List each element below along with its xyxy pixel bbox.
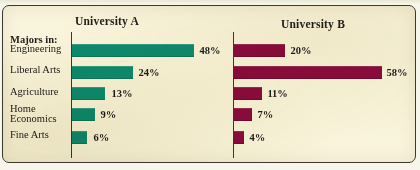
bar-value-liberal-arts-b: 58%	[386, 67, 407, 78]
bar-home-economics-b	[234, 108, 252, 121]
scanned-figure-page: Enrollment University A University B Maj…	[0, 0, 420, 170]
bar-liberal-arts-b	[234, 66, 382, 79]
chart-plot-university-b: 20% 58% 11% 7% 4%	[233, 32, 385, 158]
bar-fine-arts-b	[234, 131, 244, 144]
category-label-liberal-arts: Liberal Arts	[10, 65, 70, 76]
bar-engineering-b	[234, 44, 285, 57]
category-label-fine-arts: Fine Arts	[10, 130, 70, 141]
bar-agriculture-b	[234, 87, 262, 100]
chart-title-university-a: University A	[47, 15, 167, 27]
category-label-agriculture: Agriculture	[10, 87, 70, 98]
bar-value-liberal-arts-a: 24%	[138, 67, 159, 78]
bar-value-engineering-a: 48%	[199, 45, 220, 56]
category-label-home-economics: Home Economics	[10, 104, 70, 124]
category-label-engineering: Engineering	[10, 44, 70, 55]
bar-value-fine-arts-a: 6%	[93, 132, 109, 143]
bar-value-fine-arts-b: 4%	[249, 132, 265, 143]
bar-liberal-arts-a	[72, 66, 133, 79]
category-label-column: Engineering Liberal Arts Agriculture Hom…	[10, 44, 70, 154]
bar-value-agriculture-a: 13%	[111, 88, 132, 99]
bar-agriculture-a	[72, 87, 105, 100]
bar-fine-arts-a	[72, 131, 87, 144]
bar-value-home-economics-b: 7%	[257, 109, 273, 120]
bar-home-economics-a	[72, 108, 95, 121]
figure-frame: University A University B Majors in: Eng…	[2, 5, 416, 163]
bar-value-home-economics-a: 9%	[100, 109, 116, 120]
cropped-heading-text: Enrollment	[120, 0, 178, 4]
chart-plot-university-a: 48% 24% 13% 9% 6%	[71, 32, 221, 158]
bar-engineering-a	[72, 44, 194, 57]
bar-value-engineering-b: 20%	[290, 45, 311, 56]
bar-value-agriculture-b: 11%	[267, 88, 287, 99]
chart-title-university-b: University B	[253, 18, 373, 30]
